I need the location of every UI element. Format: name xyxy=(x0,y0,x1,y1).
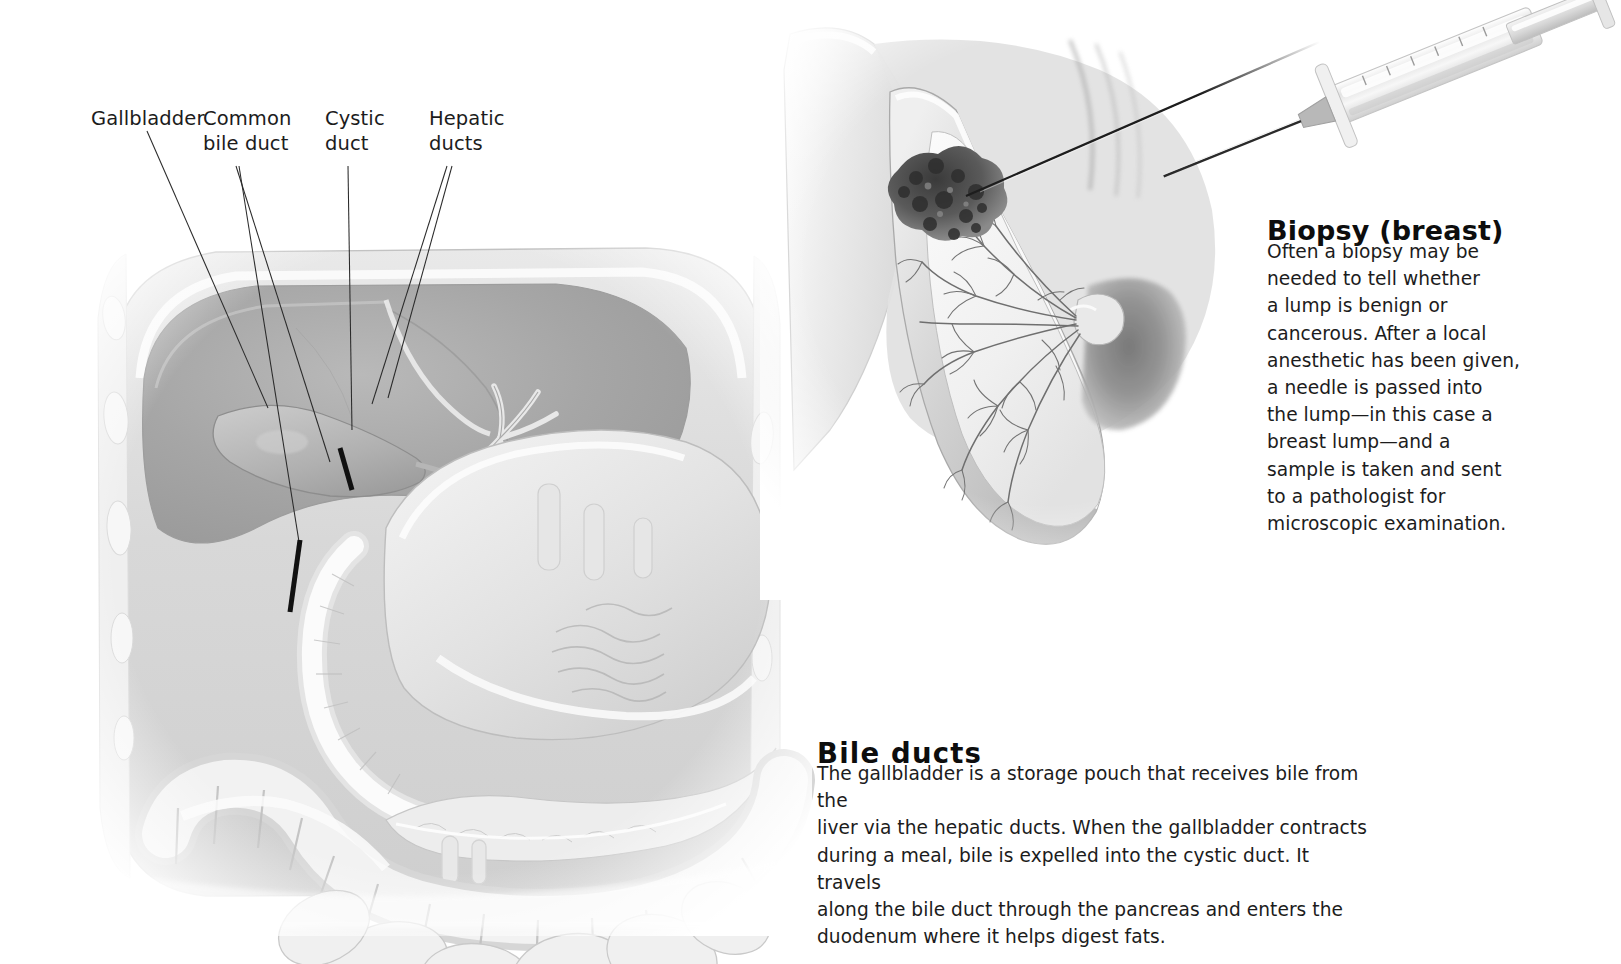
abdominal-anatomy-illustration xyxy=(86,228,792,916)
textbook-page: Gallbladder Common bile duct Cystic duct… xyxy=(0,0,1621,964)
biopsy-syringe xyxy=(1240,0,1621,164)
label-common-bile-duct: Common bile duct xyxy=(203,106,291,156)
biopsy-section-body: Often a biopsy may be needed to tell whe… xyxy=(1267,238,1527,537)
syringe-plunger xyxy=(1506,0,1603,45)
label-gallbladder: Gallbladder xyxy=(91,106,205,131)
bile-ducts-section-body: The gallbladder is a storage pouch that … xyxy=(817,760,1377,950)
label-cystic-duct: Cystic duct xyxy=(325,106,385,156)
label-hepatic-ducts: Hepatic ducts xyxy=(429,106,504,156)
